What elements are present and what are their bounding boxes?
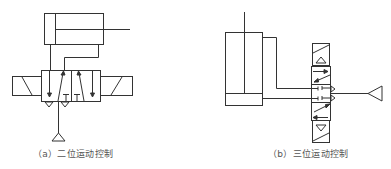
panel-b-cylinder <box>226 12 263 106</box>
panel-a-cylinder <box>45 14 131 45</box>
panel-a-pressure-source <box>52 101 65 141</box>
caption-b: （b）三位运动控制 <box>268 147 348 160</box>
panel-b-pressure-source <box>331 86 383 101</box>
caption-a: （a）二位运动控制 <box>33 147 113 160</box>
panel-b-port-lines <box>263 38 313 99</box>
pneumatic-diagram <box>0 0 391 169</box>
panel-a-port-lines <box>51 45 99 71</box>
panel-a-valve <box>13 71 133 108</box>
